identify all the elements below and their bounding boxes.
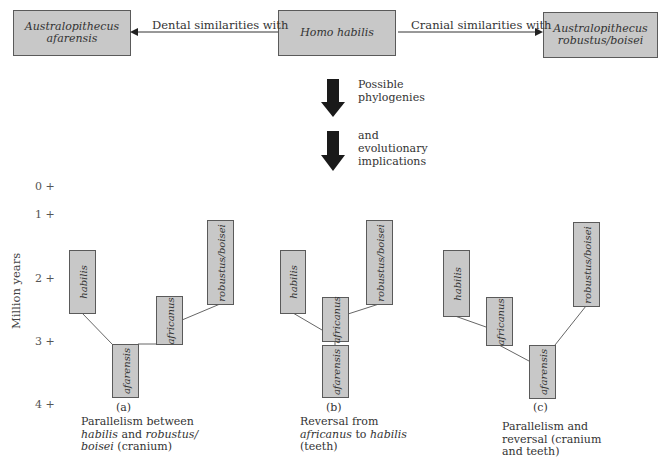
down-arrow-icon [321,79,345,117]
species-robustus-boisei: robustus/boisei [207,220,234,305]
species-africanus: africanus [156,296,183,345]
tick-4: 4 + [35,398,55,411]
species-label: robustus/boisei [215,224,226,302]
tick-1: 1 + [35,208,55,221]
species-afarensis: afarensis [112,344,139,398]
species-label: afarensis [330,348,341,394]
note-line: and [358,129,428,142]
caption-line: boisei (cranium) [81,441,198,454]
arrow-left-icon [130,28,138,36]
species-label: habilis [288,265,299,299]
caption-line: (teeth) [300,441,407,454]
species-afarensis: afarensis [322,345,349,398]
species-label: robustus/boisei [581,226,592,304]
caption-italic: habilis [370,428,407,441]
species-label: afarensis [537,349,548,395]
caption-line: and teeth) [502,446,601,459]
caption-italic: habilis [81,428,118,441]
caption-text: to [352,428,370,441]
caption-italic: robustus/ [146,428,199,441]
possible-phylogenies-note: Possible phylogenies [358,78,425,104]
note-line: Possible [358,78,425,91]
species-habilis: habilis [280,250,306,314]
caption-italic: boisei [81,440,114,453]
caption-italic: africanus [300,428,352,441]
caption-text: and [118,428,146,441]
species-robustus-boisei: robustus/boisei [366,220,393,305]
panel-b-caption: Reversal from africanus to habilis (teet… [300,416,407,454]
species-label: africanus [164,297,175,344]
caption-line: Parallelism and [502,421,601,434]
species-africanus: africanus [486,297,513,346]
tick-2: 2 + [35,272,55,285]
panel-c-label: (c) [533,401,548,414]
species-label: africanus [330,296,341,343]
note-line: phylogenies [358,91,425,104]
caption-text: (cranium) [114,440,172,453]
species-label: afarensis [120,348,131,394]
panel-a-label: (a) [116,401,131,414]
species-habilis: habilis [443,250,470,317]
note-line: implications [358,155,428,168]
species-africanus: africanus [322,297,349,342]
species-robustus-boisei: robustus/boisei [573,222,600,307]
species-label: africanus [494,298,505,345]
species-afarensis: afarensis [529,345,556,399]
species-label: habilis [451,267,462,301]
panel-c-caption: Parallelism and reversal (cranium and te… [502,421,601,459]
evolutionary-implications-note: and evolutionary implications [358,129,428,168]
note-line: evolutionary [358,142,428,155]
down-arrow-icon [321,131,345,171]
species-label: habilis [77,265,88,299]
arrow-right-icon [535,28,543,36]
panel-a-caption: Parallelism between habilis and robustus… [81,416,198,454]
species-habilis: habilis [69,250,96,314]
panel-b-label: (b) [326,401,342,414]
species-label: robustus/boisei [374,224,385,302]
tick-3: 3 + [35,335,55,348]
tick-0: 0 + [35,180,55,193]
y-axis-label: Million years [9,259,23,329]
